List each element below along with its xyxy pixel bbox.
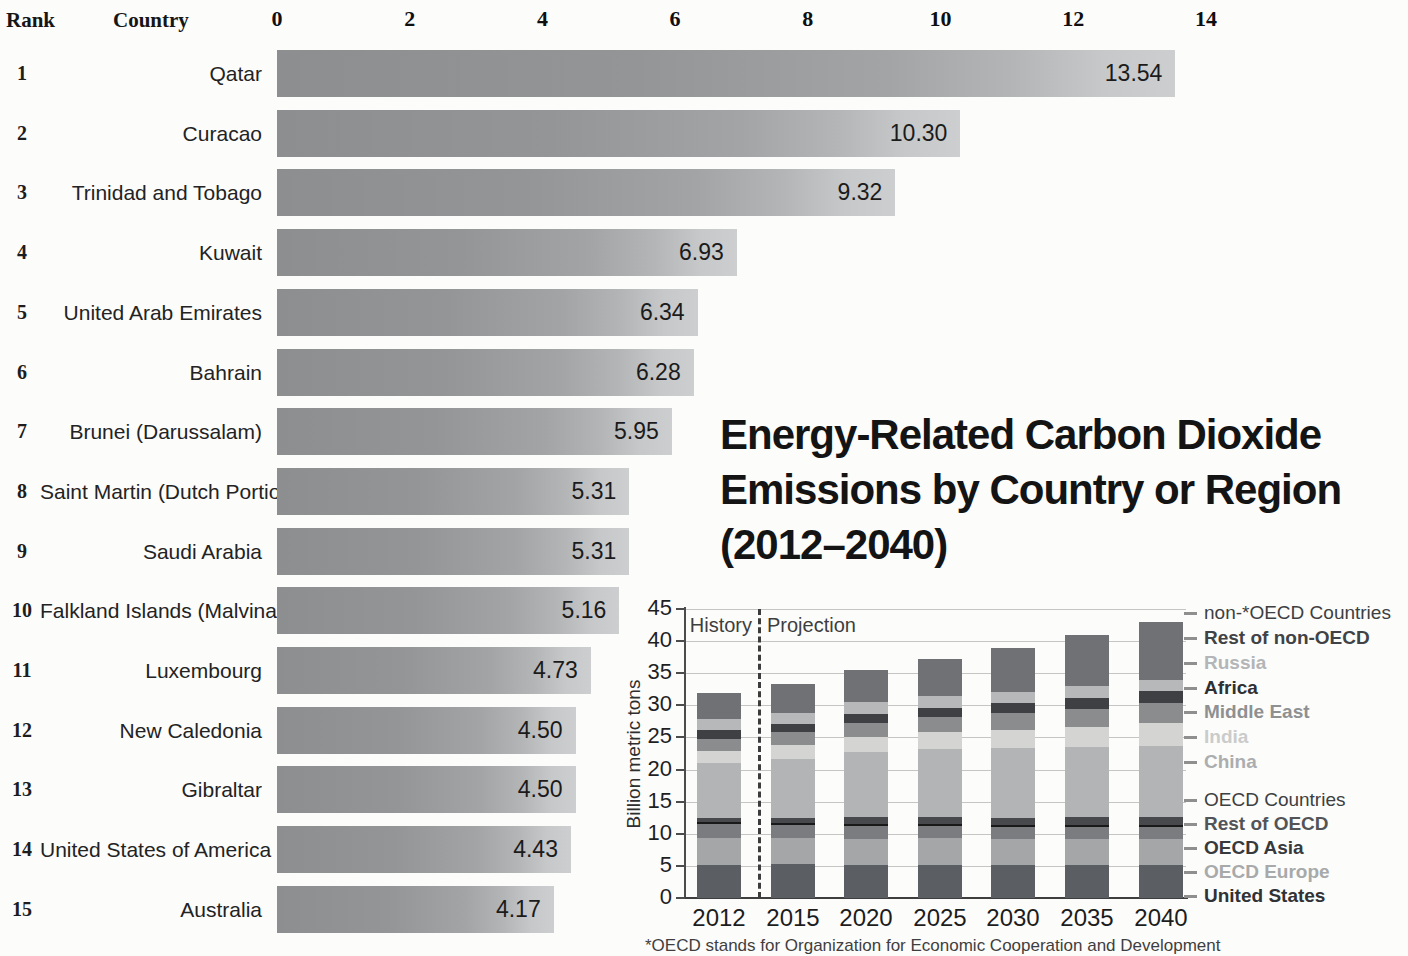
bar-segment-africa [991, 703, 1035, 713]
legend-entry-oecd-europe: OECD Europe [1184, 859, 1330, 885]
bar-value-label: 13.54 [1105, 50, 1163, 97]
y-tick-mark-45 [676, 608, 685, 610]
bar-segment-rest-of-oecd [991, 818, 1035, 827]
bar-segment-india [991, 730, 1035, 749]
bar-segment-africa [697, 730, 741, 738]
chart-title-line-2: Emissions by Country or Region [720, 462, 1341, 517]
rank-label: 5 [2, 289, 42, 336]
bar-segment-oecd-europe [771, 838, 815, 864]
bar-segment-rest-of-non-oecd [844, 670, 888, 702]
bar-segment-china [844, 752, 888, 817]
bar-segment-rest-of-oecd [844, 817, 888, 826]
x-axis-tick-4: 4 [512, 6, 572, 32]
rank-label: 13 [2, 766, 42, 813]
bar-segment-africa [1139, 691, 1183, 703]
rank-label: 7 [2, 408, 42, 455]
country-label: Falkland Islands (Malvinas) [40, 587, 262, 634]
bar-segment-middle-east [1065, 709, 1109, 727]
country-label: Trinidad and Tobago [40, 169, 262, 216]
legend-leader-dash [1184, 871, 1197, 874]
history-label: History [686, 614, 752, 637]
legend-entry-rest-of-non-oecd: Rest of non-OECD [1184, 625, 1370, 651]
legend-leader-dash [1184, 895, 1197, 898]
bar-segment-africa [918, 708, 962, 717]
bar-segment-middle-east [697, 739, 741, 751]
bar-segment-oecd-asia [918, 826, 962, 838]
bar-segment-rest-of-oecd [771, 818, 815, 825]
bar-segment-united-states [771, 864, 815, 898]
bar-segment-united-states [844, 865, 888, 898]
rank-label: 15 [2, 886, 42, 933]
country-label: Australia [40, 886, 262, 933]
bar-segment-india [697, 751, 741, 763]
bar-segment-china [771, 759, 815, 818]
bar-curacao: 10.30 [277, 110, 960, 157]
bar-segment-middle-east [844, 723, 888, 738]
country-label: United States of America [40, 826, 262, 873]
bar-value-label: 10.30 [890, 110, 948, 157]
bar-united-arab-emirates: 6.34 [277, 289, 698, 336]
bar-segment-china [991, 748, 1035, 817]
bar-segment-middle-east [918, 717, 962, 732]
legend-entry-africa: Africa [1184, 675, 1258, 701]
y-axis-line [684, 607, 686, 899]
legend-entry-non-oecd-countries: non-*OECD Countries [1184, 600, 1391, 626]
bar-australia: 4.17 [277, 886, 554, 933]
bar-segment-oecd-europe [697, 838, 741, 865]
bar-segment-africa [1065, 698, 1109, 709]
bar-value-label: 4.50 [518, 707, 563, 754]
bar-segment-china [697, 763, 741, 818]
y-tick-mark-40 [676, 640, 685, 642]
gridline-45 [686, 609, 1186, 610]
legend-leader-dash [1184, 612, 1197, 615]
bar-segment-oecd-asia [844, 826, 888, 839]
bar-trinidad-and-tobago: 9.32 [277, 169, 895, 216]
y-tick-mark-30 [676, 704, 685, 706]
legend-label: United States [1204, 885, 1325, 907]
rank-label: 8 [2, 468, 42, 515]
country-label: Gibraltar [40, 766, 262, 813]
bar-segment-russia [1139, 680, 1183, 692]
bar-value-label: 4.43 [513, 826, 558, 873]
bar-value-label: 4.17 [496, 886, 541, 933]
history-projection-divider [758, 609, 761, 898]
x-axis-tick-10: 10 [911, 6, 971, 32]
x-axis-tick-2: 2 [380, 6, 440, 32]
bar-segment-oecd-asia [771, 825, 815, 838]
bar-segment-china [1065, 747, 1109, 817]
gridline-40 [686, 641, 1186, 642]
bar-luxembourg: 4.73 [277, 647, 591, 694]
legend-label: India [1204, 726, 1248, 748]
rank-label: 14 [2, 826, 42, 873]
legend-label: China [1204, 751, 1257, 773]
legend-entry-oecd-countries: OECD Countries [1184, 787, 1346, 813]
bar-value-label: 4.73 [533, 647, 578, 694]
bar-segment-rest-of-non-oecd [771, 684, 815, 714]
bar-segment-oecd-asia [697, 824, 741, 837]
y-tick-mark-5 [676, 865, 685, 867]
legend-entry-russia: Russia [1184, 650, 1266, 676]
y-tick-label-10: 10 [614, 820, 672, 846]
x-axis-tick-0: 0 [247, 6, 307, 32]
country-label: Kuwait [40, 229, 262, 276]
x-axis-tick-14: 14 [1176, 6, 1236, 32]
rank-label: 2 [2, 110, 42, 157]
bar-saint-martin-dutch-portion: 5.31 [277, 468, 629, 515]
legend-leader-dash [1184, 687, 1197, 690]
legend-label: OECD Europe [1204, 861, 1330, 883]
y-tick-mark-25 [676, 736, 685, 738]
y-tick-mark-15 [676, 801, 685, 803]
y-tick-label-0: 0 [614, 884, 672, 910]
legend-leader-dash [1184, 799, 1197, 802]
bar-value-label: 6.93 [679, 229, 724, 276]
bar-segment-rest-of-oecd [1139, 817, 1183, 827]
rank-label: 11 [2, 647, 42, 694]
bar-segment-china [1139, 746, 1183, 817]
rank-label: 6 [2, 349, 42, 396]
bar-gibraltar: 4.50 [277, 766, 576, 813]
y-tick-label-25: 25 [614, 723, 672, 749]
bar-kuwait: 6.93 [277, 229, 737, 276]
bar-segment-rest-of-non-oecd [697, 693, 741, 719]
bar-united-states-of-america: 4.43 [277, 826, 571, 873]
